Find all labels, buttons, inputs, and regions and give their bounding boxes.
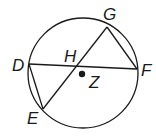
label-h: H — [64, 47, 77, 66]
chord-ge — [43, 27, 107, 109]
label-e: E — [27, 109, 39, 128]
center-dot — [79, 71, 85, 77]
label-f: F — [141, 61, 153, 80]
label-g: G — [103, 5, 116, 24]
label-d: D — [12, 56, 24, 75]
chord-df — [29, 64, 137, 69]
circle-diagram: G F D E H Z — [0, 0, 156, 137]
label-z: Z — [88, 73, 100, 92]
